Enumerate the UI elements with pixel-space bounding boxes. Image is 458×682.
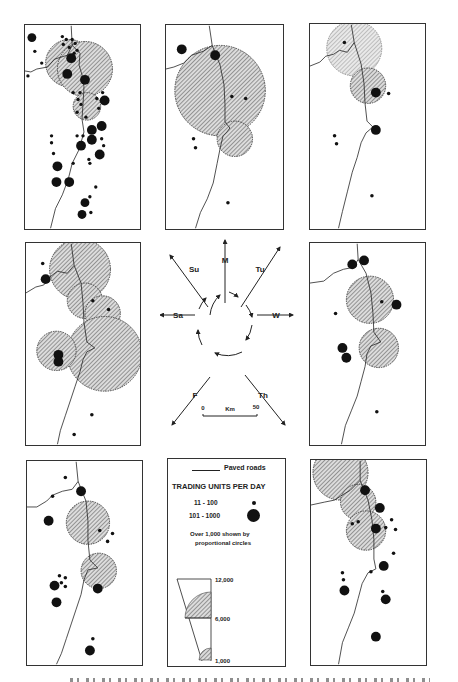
map-thursday-svg bbox=[311, 460, 426, 665]
scale-1000: 1,000 bbox=[215, 658, 231, 664]
label-f: F bbox=[193, 391, 198, 400]
map-sunday bbox=[24, 24, 141, 230]
map-tuesday-svg bbox=[310, 24, 425, 229]
map-sunday-svg bbox=[25, 25, 140, 229]
weekly-cycle-diagram: M Tu Su W Sa Th F 0 Km 50 bbox=[160, 235, 310, 445]
cycle-arc bbox=[198, 330, 202, 345]
scale-start: 0 bbox=[201, 405, 205, 411]
label-th: Th bbox=[258, 391, 268, 400]
market-area-circle bbox=[81, 553, 116, 588]
map-saturday-svg bbox=[26, 243, 140, 445]
market-area-circle bbox=[359, 328, 398, 367]
market-area-circle bbox=[327, 24, 382, 76]
market-area-circle bbox=[57, 41, 112, 96]
market-area-circle bbox=[67, 316, 140, 391]
direction-arrow-su bbox=[170, 255, 208, 307]
label-tu: Tu bbox=[255, 265, 264, 274]
scale-bar bbox=[203, 414, 257, 416]
market-area-circle bbox=[350, 68, 385, 103]
cycle-arc bbox=[246, 325, 252, 340]
market-area-circle bbox=[346, 276, 393, 323]
direction-arrow-f bbox=[172, 377, 210, 425]
direction-arrow-th bbox=[245, 375, 285, 425]
proportional-scale-diagram: 12,000 6,000 1,000 bbox=[167, 458, 286, 667]
cropped-caption-text bbox=[70, 678, 430, 682]
paved-road bbox=[27, 462, 78, 507]
map-tuesday bbox=[309, 23, 426, 230]
proportional-circle-12000 bbox=[185, 592, 211, 618]
map-friday bbox=[26, 460, 143, 666]
scale-12000: 12,000 bbox=[215, 577, 234, 583]
cycle-arc bbox=[246, 305, 252, 317]
label-m: M bbox=[222, 256, 229, 265]
map-monday bbox=[165, 24, 284, 230]
map-thursday bbox=[310, 459, 427, 666]
label-sa: Sa bbox=[173, 311, 183, 320]
scale-end: 50 bbox=[253, 404, 260, 410]
map-friday-svg bbox=[27, 461, 142, 665]
map-wednesday-svg bbox=[310, 243, 425, 445]
cycle-arc bbox=[229, 292, 238, 297]
cycle-arc bbox=[215, 352, 242, 356]
market-area-circle bbox=[175, 45, 265, 135]
label-su: Su bbox=[189, 265, 199, 274]
map-monday-svg bbox=[166, 25, 283, 229]
direction-arrow-tu bbox=[241, 247, 280, 307]
cycle-arc bbox=[210, 295, 220, 315]
proportional-circle-1000 bbox=[199, 648, 211, 660]
scale-6000: 6,000 bbox=[215, 616, 231, 622]
legend: Paved roads TRADING UNITS PER DAY 11 - 1… bbox=[167, 458, 286, 667]
label-w: W bbox=[272, 311, 280, 320]
scale-unit: Km bbox=[225, 406, 235, 412]
map-saturday bbox=[25, 242, 141, 446]
map-wednesday bbox=[309, 242, 426, 446]
